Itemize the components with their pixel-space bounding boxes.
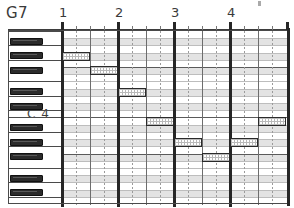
grid-top-border — [8, 30, 289, 31]
grid-quarter-line — [90, 31, 91, 205]
ruler-bar-number: 4 — [227, 6, 235, 19]
black-key[interactable] — [10, 153, 43, 160]
grid-beat-line — [132, 31, 133, 205]
note-block[interactable] — [174, 138, 202, 147]
note-block[interactable] — [90, 66, 118, 75]
note-block[interactable] — [230, 138, 258, 147]
grid-right-border — [287, 28, 290, 206]
corner-artifact — [258, 1, 261, 6]
black-key[interactable] — [10, 38, 43, 45]
black-key[interactable] — [10, 124, 43, 131]
black-key[interactable] — [10, 52, 43, 59]
black-key[interactable] — [10, 103, 43, 110]
grid-beat-line — [104, 31, 105, 205]
grid-beat-line — [188, 31, 189, 205]
grid-bar-line — [229, 29, 232, 207]
ruler-bar-number: 3 — [171, 6, 179, 19]
white-key-divider — [9, 96, 63, 97]
black-key[interactable] — [10, 88, 43, 95]
grid-quarter-line — [202, 31, 203, 205]
grid-left-border — [8, 30, 9, 204]
note-block[interactable] — [146, 117, 174, 126]
white-key-divider — [9, 81, 63, 82]
black-key[interactable] — [10, 175, 43, 182]
white-key-divider — [9, 31, 63, 32]
note-block[interactable] — [118, 88, 146, 97]
grid-bottom-border — [8, 203, 289, 204]
white-key-divider — [9, 146, 63, 147]
white-key-divider — [9, 117, 63, 118]
grid-beat-line — [244, 31, 245, 205]
white-key-divider — [9, 182, 63, 183]
black-key[interactable] — [10, 189, 43, 196]
note-grid[interactable] — [62, 30, 289, 204]
note-block[interactable] — [62, 52, 90, 61]
black-key[interactable] — [10, 67, 43, 74]
black-key[interactable] — [10, 139, 43, 146]
piano-roll-editor: G7 1234 C 4 — [0, 0, 294, 208]
white-key-divider — [9, 168, 63, 169]
editor-body: C 4 — [8, 30, 289, 204]
white-key-divider — [9, 132, 63, 133]
piano-keyboard[interactable]: C 4 — [8, 30, 62, 204]
white-key-divider — [9, 45, 63, 46]
ruler-bar-number: 2 — [115, 6, 123, 19]
ruler-bar-number: 1 — [59, 6, 67, 19]
grid-beat-line — [216, 31, 217, 205]
timeline-ruler[interactable]: 1234 — [0, 0, 294, 30]
white-key-divider — [9, 60, 63, 61]
grid-bar-line — [117, 29, 120, 207]
note-block[interactable] — [258, 117, 286, 126]
white-key-divider — [9, 197, 63, 198]
white-key-divider — [9, 110, 63, 111]
note-block[interactable] — [202, 153, 230, 162]
